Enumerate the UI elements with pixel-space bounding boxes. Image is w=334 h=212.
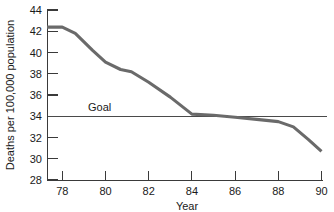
x-tick-label: 78 [56, 185, 68, 197]
y-tick-label: 30 [30, 153, 42, 165]
x-tick-label: 90 [315, 185, 327, 197]
x-tick-label: 86 [229, 185, 241, 197]
x-axis-title: Year [176, 200, 199, 212]
x-tick-label: 82 [143, 185, 155, 197]
y-axis-tick-labels: 44 42 40 38 36 34 32 30 28 [30, 4, 42, 186]
y-tick-label: 44 [30, 4, 42, 16]
y-tick-label: 34 [30, 110, 42, 122]
x-tick-label: 80 [99, 185, 111, 197]
y-tick-label: 36 [30, 89, 42, 101]
line-chart: 44 42 40 38 36 34 32 30 28 78 80 82 84 8… [0, 0, 334, 212]
chart-container: 44 42 40 38 36 34 32 30 28 78 80 82 84 8… [0, 0, 334, 212]
goal-label: Goal [88, 101, 111, 113]
x-tick-label: 88 [272, 185, 284, 197]
y-tick-label: 40 [30, 47, 42, 59]
y-tick-label: 28 [30, 174, 42, 186]
x-tick-label: 84 [186, 185, 198, 197]
y-tick-label: 42 [30, 25, 42, 37]
y-tick-label: 38 [30, 68, 42, 80]
y-tick-label: 32 [30, 132, 42, 144]
y-axis-title: Deaths per 100,000 population [4, 20, 16, 170]
